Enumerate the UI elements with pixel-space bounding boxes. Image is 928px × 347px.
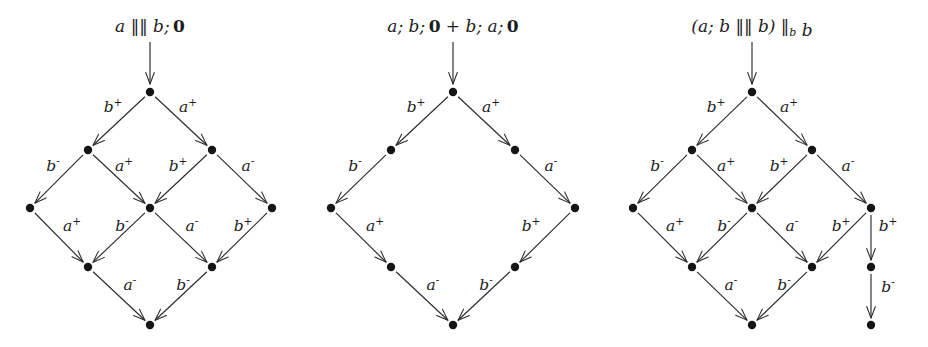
lts-figure: a ‖‖ b; 0b+a+b-a+b+a-a+b-a-b+a-b-a; b; 0…: [0, 0, 928, 347]
diagram-1-edge-label-n1-n3: b-: [46, 155, 60, 175]
diagram-1-edge-label-n1-n4: a+: [115, 155, 133, 175]
diagram-1-state-n8[interactable]: [146, 321, 154, 329]
diagram-2-edge-label-m2-m4: a-: [545, 155, 558, 175]
diagram-3-edge-label-p1-p3: b-: [650, 155, 664, 175]
diagram-3-edge-label-p4-p7: a-: [786, 215, 799, 235]
diagram-3-state-p1[interactable]: [688, 146, 696, 154]
diagram-2-state-m5[interactable]: [387, 263, 395, 271]
diagram-1-state-n2[interactable]: [208, 146, 216, 154]
diagram-caption: a ‖‖ b; 0: [115, 16, 185, 36]
diagram-1-state-n3[interactable]: [26, 204, 34, 212]
diagram-1-edge-n6-n8: [93, 272, 145, 320]
diagram-1-edge-label-n0-n2: a+: [179, 96, 197, 116]
diagram-2-edge-label-m6-m7: b-: [479, 274, 493, 294]
diagram-1-edge-label-n4-n7: a-: [186, 215, 199, 235]
diagram-1-edge-label-n5-n7: b+: [234, 215, 253, 235]
lts-canvas: a ‖‖ b; 0b+a+b-a+b+a-a+b-a-b+a-b-a; b; 0…: [0, 0, 928, 347]
diagram-2-edge-m5-m7: [396, 272, 448, 320]
diagram-3-edge-p6-p9: [697, 272, 747, 320]
diagram-1-state-n6[interactable]: [84, 263, 92, 271]
diagram-3-state-p6[interactable]: [688, 263, 696, 271]
diagram-2-state-m1[interactable]: [387, 146, 395, 154]
diagram-3-edge-label-p3-p6: a+: [666, 215, 684, 235]
diagram-3: (a; b ‖‖ b) ‖b bb+a+b-a+b+a-a+b-a-b+b+a-…: [629, 16, 898, 329]
diagram-1-edge-label-n0-n1: b+: [104, 96, 123, 116]
diagram-2: a; b; 0 + b; a; 0b+a+b-a-a+b+a-b-: [327, 16, 579, 329]
diagram-1-state-n0[interactable]: [146, 88, 154, 96]
diagram-3-state-p5[interactable]: [867, 204, 875, 212]
diagram-1-state-n7[interactable]: [208, 263, 216, 271]
diagram-2-edge-label-m1-m3: b-: [348, 155, 362, 175]
diagram-3-state-p10[interactable]: [867, 321, 875, 329]
diagram-caption: a; b; 0 + b; a; 0: [387, 16, 518, 36]
diagram-1-edge-label-n3-n6: a+: [63, 215, 81, 235]
diagram-2-state-m4[interactable]: [571, 204, 579, 212]
diagram-2-edge-label-m5-m7: a-: [427, 274, 440, 294]
diagram-3-edge-label-p2-p5: a-: [842, 155, 855, 175]
diagram-1-state-n1[interactable]: [84, 146, 92, 154]
diagram-3-state-p3[interactable]: [629, 204, 637, 212]
diagram-2-edge-label-m0-m2: a+: [482, 96, 500, 116]
diagram-1-edge-n4-n7: [155, 213, 207, 262]
diagram-3-state-p0[interactable]: [748, 88, 756, 96]
diagram-2-state-m0[interactable]: [449, 88, 457, 96]
diagram-3-state-p2[interactable]: [808, 146, 816, 154]
diagram-3-edge-label-p7-p9: b-: [777, 274, 791, 294]
diagram-3-edge-label-p4-p6: b-: [717, 215, 731, 235]
diagram-2-edge-label-m4-m6: b+: [522, 215, 541, 235]
diagram-3-edge-label-p1-p4: a+: [717, 155, 735, 175]
diagram-2-state-m3[interactable]: [327, 204, 335, 212]
diagram-1-edge-label-n2-n4: b+: [169, 155, 188, 175]
diagram-1: a ‖‖ b; 0b+a+b-a+b+a-a+b-a-b+a-b-: [26, 16, 276, 329]
diagram-1-state-n4[interactable]: [146, 204, 154, 212]
diagram-3-edge-label-p2-p4: b+: [770, 155, 789, 175]
diagram-2-edge-label-m0-m1: b+: [407, 96, 426, 116]
diagram-2-edge-label-m3-m5: a+: [366, 215, 384, 235]
diagram-3-edge-label-p8-p10: b-: [881, 276, 895, 296]
diagram-3-edge-p4-p7: [757, 213, 807, 262]
diagram-3-state-p9[interactable]: [748, 321, 756, 329]
diagram-1-edge-label-n2-n5: a-: [242, 155, 255, 175]
diagram-3-state-p7[interactable]: [808, 263, 816, 271]
diagram-3-edge-label-p0-p1: b+: [707, 96, 726, 116]
diagram-2-state-m6[interactable]: [511, 263, 519, 271]
diagram-2-state-m2[interactable]: [511, 146, 519, 154]
diagram-3-edge-label-p6-p9: a-: [725, 274, 738, 294]
diagram-3-state-p4[interactable]: [748, 204, 756, 212]
diagram-1-edge-label-n6-n8: a-: [124, 274, 137, 294]
diagram-1-edge-label-n7-n8: b-: [176, 274, 190, 294]
diagram-caption: (a; b ‖‖ b) ‖b b: [691, 16, 812, 40]
diagram-2-state-m7[interactable]: [449, 321, 457, 329]
diagram-1-state-n5[interactable]: [268, 204, 276, 212]
diagram-3-state-p8[interactable]: [867, 263, 875, 271]
diagram-3-edge-label-p5-p8: b+: [879, 215, 898, 235]
diagram-1-edge-label-n4-n6: b-: [115, 215, 129, 235]
diagram-3-edge-label-p0-p2: a+: [780, 96, 798, 116]
